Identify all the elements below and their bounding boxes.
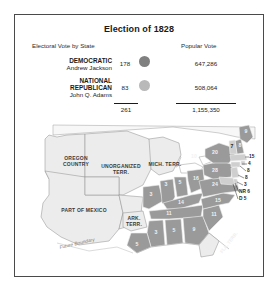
label-part-of-mexico: PART OF MEXICO [47, 207, 121, 213]
state-missouri [143, 185, 163, 209]
votes-delaware: 3 [244, 182, 247, 187]
votes-new-york-extra: 10 [188, 153, 200, 159]
votes-new-york: 20 [209, 149, 221, 155]
territory-michigan [149, 137, 181, 175]
page-title: Election of 1828 [15, 24, 263, 34]
popular-votes-total: 1,155,350 [176, 106, 236, 113]
popular-votes-national-republican: 508,064 [176, 84, 236, 91]
votes-virginia: 24 [209, 181, 221, 187]
column-header-electoral: Electoral Vote by State [32, 42, 95, 49]
votes-massachusetts: 15 [249, 154, 254, 159]
votes-maryland-national-republican: NR 6 [239, 189, 250, 194]
votes-vermont: 7 [228, 143, 236, 149]
election-map-figure: Election of 1828 Electoral Vote by State… [14, 14, 264, 277]
votes-maryland-democratic: D 5 [239, 196, 246, 201]
state-maryland [219, 177, 235, 185]
votes-ohio: 16 [190, 175, 202, 181]
votes-kentucky: 14 [175, 199, 187, 205]
votes-mississippi: 3 [152, 229, 160, 235]
votes-rhode-island: 4 [248, 161, 251, 166]
candidate-name-jackson: Andrew Jackson [26, 64, 112, 71]
votes-missouri: 3 [147, 191, 155, 197]
votes-new-jersey: 8 [245, 175, 248, 180]
state-new-jersey [231, 167, 239, 178]
votes-connecticut: 8 [247, 168, 250, 173]
votes-illinois: 3 [162, 181, 170, 187]
votes-tennessee: 11 [163, 210, 175, 216]
votes-south-carolina: 11 [208, 211, 220, 217]
votes-new-hampshire: 8 [236, 142, 244, 148]
votes-north-carolina: 15 [212, 197, 224, 203]
votes-maine: 9 [241, 128, 251, 134]
votes-pennsylvania: 28 [209, 167, 221, 173]
electoral-total-rule [114, 103, 138, 104]
electoral-votes-democratic: 178 [116, 60, 134, 67]
electoral-votes-total: 261 [114, 106, 138, 113]
state-connecticut [231, 162, 240, 167]
votes-alabama: 5 [170, 227, 178, 233]
votes-georgia: 9 [190, 226, 198, 232]
democratic-color-dot [139, 56, 150, 67]
column-header-popular: Popular Vote [181, 42, 216, 49]
popular-votes-democratic: 647,286 [176, 60, 236, 67]
national-republican-color-dot [139, 80, 150, 91]
label-michigan-terr: MICH. TERR. [144, 161, 186, 167]
label-arkansas-terr-line2: TERR. [124, 221, 144, 227]
votes-louisiana: 5 [133, 241, 141, 247]
electoral-votes-national-republican: 83 [116, 84, 134, 91]
united-states-map: .terr{fill:#ececec;stroke:#8d8d8d;stroke… [23, 121, 257, 271]
state-rhode-island [241, 161, 245, 165]
label-unorganized-terr-line2: TERR. [93, 169, 149, 175]
state-massachusetts [230, 154, 247, 161]
candidate-name-adams: John Q. Adams [26, 91, 112, 98]
votes-indiana: 5 [176, 179, 184, 185]
popular-total-rule [176, 103, 236, 104]
